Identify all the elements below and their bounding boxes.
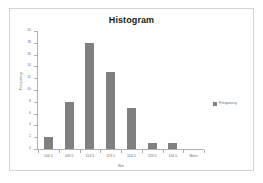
y-axis-tick-mark: [34, 137, 37, 138]
y-axis-tick-label: 8: [10, 100, 31, 103]
bar-slot: [59, 31, 80, 149]
y-axis-tick-mark: [34, 125, 37, 126]
bar-series: [38, 31, 204, 149]
y-axis-tick-mark: [34, 102, 37, 103]
x-axis-tick-label: 134.5: [163, 155, 184, 159]
chart-frame[interactable]: Histogram Frequency 02468101214161820 10…: [9, 8, 254, 171]
y-axis-tick-label: 2: [10, 135, 31, 138]
y-axis-tick-mark: [34, 43, 37, 44]
x-axis-tick-mark: [100, 150, 101, 153]
x-axis-labels: 104.5109.5114.5119.5124.5129.5134.5More: [38, 155, 204, 159]
bar-slot: [121, 31, 142, 149]
bar-114.5[interactable]: [85, 43, 94, 149]
bar-slot: [80, 31, 101, 149]
y-axis-tick-mark: [34, 66, 37, 67]
x-axis-tick-label: More: [183, 155, 204, 159]
legend[interactable]: Frequency: [213, 102, 237, 106]
legend-label-frequency: Frequency: [219, 102, 237, 106]
bar-slot: [38, 31, 59, 149]
y-axis-tick-label: 20: [10, 29, 31, 32]
bar-134.5[interactable]: [168, 143, 177, 149]
x-axis-title: Bin: [38, 164, 204, 168]
x-axis-tick-mark: [38, 150, 39, 153]
x-axis-tick-label: 129.5: [142, 155, 163, 159]
x-axis-tick-label: 124.5: [121, 155, 142, 159]
x-axis-tick-mark: [121, 150, 122, 153]
x-axis-tick-mark: [163, 150, 164, 153]
x-axis-tick-mark: [80, 150, 81, 153]
x-axis-tick-mark: [183, 150, 184, 153]
y-axis-tick-label: 18: [10, 41, 31, 44]
x-axis-tick-mark: [142, 150, 143, 153]
y-axis-tick-mark: [34, 55, 37, 56]
y-axis-tick-label: 12: [10, 76, 31, 79]
y-axis-tick-label: 4: [10, 123, 31, 126]
bar-slot: [183, 31, 204, 149]
x-axis-tick-label: 114.5: [80, 155, 101, 159]
bar-104.5[interactable]: [44, 137, 53, 149]
y-axis-tick-label: 0: [10, 147, 31, 150]
y-axis-tick-mark: [34, 149, 37, 150]
y-axis-tick-mark: [34, 114, 37, 115]
y-axis-tick-label: 10: [10, 88, 31, 91]
y-axis-tick-mark: [34, 31, 37, 32]
bar-slot: [100, 31, 121, 149]
x-axis-tick-label: 119.5: [100, 155, 121, 159]
bar-124.5[interactable]: [127, 108, 136, 149]
chart-title: Histogram: [10, 15, 253, 25]
x-axis-tick-label: 109.5: [59, 155, 80, 159]
bar-119.5[interactable]: [106, 72, 115, 149]
legend-swatch-frequency: [213, 102, 217, 106]
y-axis-tick-mark: [34, 90, 37, 91]
x-axis-tick-mark: [59, 150, 60, 153]
x-axis-tick-label: 104.5: [38, 155, 59, 159]
bar-129.5[interactable]: [148, 143, 157, 149]
bar-109.5[interactable]: [65, 102, 74, 149]
y-axis-tick-mark: [34, 78, 37, 79]
bar-slot: [163, 31, 184, 149]
y-axis-tick-label: 14: [10, 64, 31, 67]
y-axis-tick-label: 6: [10, 112, 31, 115]
bar-slot: [142, 31, 163, 149]
y-axis-tick-label: 16: [10, 53, 31, 56]
x-axis-tick-mark: [204, 150, 205, 153]
